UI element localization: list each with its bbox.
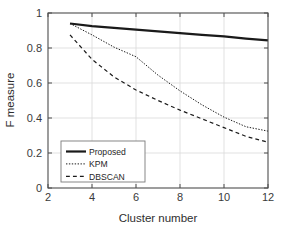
y-axis-title: F measure bbox=[4, 73, 16, 128]
x-tick-label: 6 bbox=[133, 191, 139, 203]
y-tick-label: 0.8 bbox=[27, 42, 42, 54]
figure-container: 24681012 00.20.40.60.81 Cluster number F… bbox=[0, 0, 283, 228]
x-tick-label: 8 bbox=[177, 191, 183, 203]
y-tick-label: 0.2 bbox=[27, 147, 42, 159]
y-tick-label: 0.4 bbox=[27, 112, 42, 124]
x-tick-label: 4 bbox=[89, 191, 95, 203]
x-tick-label: 12 bbox=[262, 191, 274, 203]
legend-label-proposed: Proposed bbox=[89, 147, 126, 157]
y-tick-label: 1 bbox=[36, 7, 42, 19]
legend-label-kpm: KPM bbox=[89, 159, 108, 169]
chart-canvas: 24681012 00.20.40.60.81 Cluster number F… bbox=[0, 0, 283, 228]
y-tick-label: 0.6 bbox=[27, 77, 42, 89]
chart-legend[interactable]: ProposedKPMDBSCAN bbox=[61, 141, 145, 182]
x-axis-title: Cluster number bbox=[119, 212, 198, 224]
y-tick-label: 0 bbox=[36, 182, 42, 194]
x-tick-label: 2 bbox=[45, 191, 51, 203]
x-tick-label: 10 bbox=[218, 191, 230, 203]
legend-label-dbscan: DBSCAN bbox=[89, 172, 125, 182]
